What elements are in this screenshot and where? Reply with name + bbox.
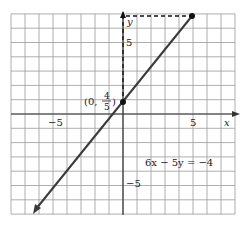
- svg-text:(0,: (0,: [84, 96, 97, 107]
- x-axis-label: x: [224, 117, 230, 128]
- equation-label: 6x − 5y = −4: [145, 157, 213, 168]
- coordinate-plane: y 5 −5 −5 5 x (0, 4 5 ) 6x − 5y = −4: [0, 0, 246, 225]
- x-tick-neg5: −5: [48, 117, 63, 128]
- y-axis-label: y: [126, 16, 133, 27]
- x-axis-arrow-icon: [232, 111, 240, 117]
- svg-text:4: 4: [104, 91, 110, 101]
- equation-line: [36, 16, 192, 209]
- y-tick-5: 5: [126, 37, 132, 48]
- x-axis: [11, 111, 240, 117]
- y-axis-arrow-icon: [120, 11, 126, 18]
- x-tick-5: 5: [190, 117, 196, 128]
- y-tick-neg5: −5: [126, 178, 141, 189]
- point-top: [189, 13, 195, 19]
- point-y-intercept: [120, 99, 126, 105]
- svg-text:): ): [112, 96, 116, 107]
- point-label: (0, 4 5 ): [84, 91, 116, 112]
- svg-text:5: 5: [104, 102, 110, 112]
